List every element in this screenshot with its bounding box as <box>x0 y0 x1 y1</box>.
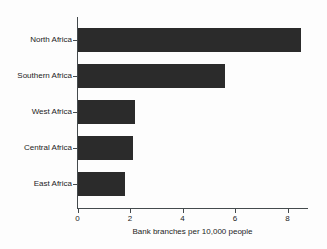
bar <box>78 172 125 196</box>
bar <box>78 28 301 52</box>
y-axis-label-text: Central Africa <box>3 143 77 152</box>
y-axis-label: Central Africa <box>0 143 77 153</box>
x-axis-tick <box>183 209 184 213</box>
y-axis-label-text: Southern Africa <box>3 71 77 80</box>
bar-fill <box>78 172 125 196</box>
bar-fill <box>78 28 301 52</box>
x-axis-tick-label: 0 <box>68 214 88 224</box>
bar <box>78 136 133 160</box>
x-axis-tick <box>288 209 289 213</box>
y-axis-label: North Africa <box>0 35 77 45</box>
x-axis-tick-label: 6 <box>225 214 245 224</box>
x-axis-title: Bank branches per 10,000 people <box>77 227 308 237</box>
bar-chart: North AfricaSouthern AfricaWest AfricaCe… <box>0 0 327 249</box>
y-axis-label: West Africa <box>0 107 77 117</box>
x-axis-line <box>77 208 308 209</box>
bar-fill <box>78 64 225 88</box>
bar <box>78 64 225 88</box>
y-axis-label: Southern Africa <box>0 71 77 81</box>
y-axis-label-text: North Africa <box>3 35 77 44</box>
x-axis-tick <box>235 209 236 213</box>
y-axis-label-text: East Africa <box>3 179 77 188</box>
x-axis-tick-label: 8 <box>278 214 298 224</box>
y-axis-label: East Africa <box>0 179 77 189</box>
x-axis-tick <box>130 209 131 213</box>
bar-fill <box>78 136 133 160</box>
bar-fill <box>78 100 136 124</box>
x-axis-tick-label: 4 <box>173 214 193 224</box>
x-axis-tick <box>78 209 79 213</box>
y-axis-label-text: West Africa <box>3 107 77 116</box>
bar <box>78 100 136 124</box>
x-axis-tick-label: 2 <box>120 214 140 224</box>
